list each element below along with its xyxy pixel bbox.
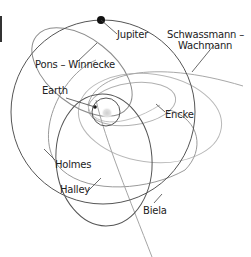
label-schwassmann-line1: Schwassmann –: [167, 29, 244, 40]
label-jupiter: Jupiter: [116, 29, 149, 40]
comet-orbits-diagram: Jupiter Schwassmann – Wachmann Pons – Wi…: [0, 0, 251, 257]
label-biela: Biela: [143, 205, 167, 216]
leader-encke: [156, 104, 165, 112]
label-pons-winnecke: Pons – Winnecke: [35, 59, 115, 70]
label-holmes: Holmes: [55, 159, 91, 170]
sun-icon: [101, 107, 113, 119]
label-earth: Earth: [42, 85, 68, 96]
leader-biela: [154, 194, 162, 203]
leader-holmes: [44, 149, 55, 160]
orbit-encke: [86, 77, 179, 131]
leader-jupiter: [101, 20, 117, 34]
leader-earth: [66, 98, 95, 107]
label-schwassmann-line2: Wachmann: [178, 40, 232, 51]
label-halley: Halley: [60, 184, 90, 195]
label-encke: Encke: [165, 109, 194, 120]
